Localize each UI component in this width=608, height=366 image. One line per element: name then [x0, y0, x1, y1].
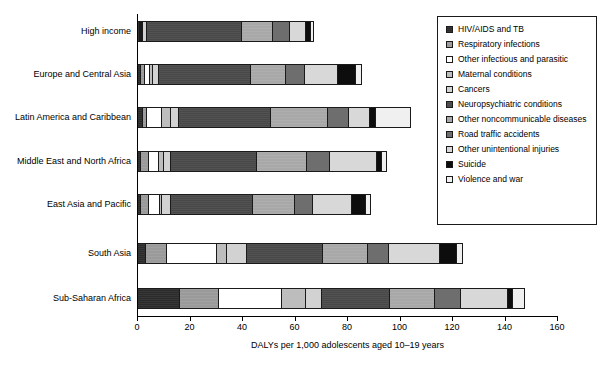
legend-item-label: Road traffic accidents	[458, 129, 540, 139]
x-tick-mark	[347, 317, 348, 321]
legend-item-label: HIV/AIDS and TB	[458, 24, 524, 34]
bar-segment	[323, 244, 368, 263]
bar-segment	[247, 244, 323, 263]
bar-segment	[305, 65, 338, 84]
legend-item-label: Maternal conditions	[458, 69, 532, 79]
bar-segment	[253, 195, 295, 214]
bar-segment	[376, 108, 410, 127]
legend-item-label: Respiratory infections	[458, 39, 540, 49]
bar-segment	[257, 152, 307, 171]
x-tick-mark	[190, 317, 191, 321]
bar-segment	[461, 289, 508, 308]
x-tick-label: 160	[537, 322, 577, 333]
y-axis-line	[137, 14, 138, 317]
legend-item[interactable]: Respiratory infections	[446, 39, 590, 49]
legend-item-label: Violence and war	[458, 174, 523, 184]
bar-segment	[271, 108, 329, 127]
chart-root: High incomeEurope and Central AsiaLatin …	[0, 0, 608, 366]
y-axis-category-label: East Asia and Pacific	[0, 199, 131, 209]
y-axis-category-label: South Asia	[0, 248, 131, 258]
bar-segment	[171, 152, 258, 171]
stacked-bar	[137, 288, 525, 309]
x-tick-label: 20	[170, 322, 210, 333]
bar-segment	[440, 244, 457, 263]
bar-segment	[330, 152, 377, 171]
legend-swatch-icon	[446, 146, 453, 153]
legend-item[interactable]: Neuropsychiatric conditions	[446, 99, 590, 109]
bar-segment	[290, 22, 306, 41]
bar-segment	[180, 289, 219, 308]
x-tick-mark	[242, 317, 243, 321]
stacked-bar	[137, 64, 362, 85]
bar-segment	[307, 152, 329, 171]
bar-segment	[390, 289, 435, 308]
stacked-bar	[137, 107, 411, 128]
bar-segment	[389, 244, 440, 263]
x-tick-mark	[452, 317, 453, 321]
legend-swatch-icon	[446, 116, 453, 123]
legend: HIV/AIDS and TBRespiratory infectionsOth…	[437, 16, 597, 225]
legend-item[interactable]: Other noncommunicable diseases	[446, 114, 590, 124]
x-tick-label: 60	[275, 322, 315, 333]
bar-segment	[149, 195, 160, 214]
stacked-bar	[137, 194, 371, 215]
legend-item-label: Cancers	[458, 84, 490, 94]
bar-segment	[368, 244, 389, 263]
legend-swatch-icon	[446, 176, 453, 183]
legend-item[interactable]: HIV/AIDS and TB	[446, 24, 590, 34]
legend-swatch-icon	[446, 41, 453, 48]
bar-segment	[251, 65, 286, 84]
bar-segment	[141, 195, 149, 214]
y-axis-category-label: High income	[0, 26, 131, 36]
bar-segment	[366, 195, 370, 214]
bar-segment	[306, 289, 322, 308]
legend-item[interactable]: Maternal conditions	[446, 69, 590, 79]
legend-item[interactable]: Other infectious and parasitic	[446, 54, 590, 64]
bar-segment	[273, 22, 290, 41]
bar-segment	[171, 108, 179, 127]
bar-segment	[147, 22, 242, 41]
bar-segment	[513, 289, 524, 308]
x-tick-mark	[505, 317, 506, 321]
legend-item[interactable]: Suicide	[446, 159, 590, 169]
x-tick-label: 40	[222, 322, 262, 333]
legend-swatch-icon	[446, 71, 453, 78]
x-tick-mark	[295, 317, 296, 321]
bar-segment	[149, 152, 160, 171]
bar-segment	[286, 65, 304, 84]
bar-segment	[242, 22, 274, 41]
x-tick-label: 120	[432, 322, 472, 333]
bar-segment	[138, 289, 180, 308]
bar-segment	[179, 108, 271, 127]
legend-item[interactable]: Other unintentional injuries	[446, 144, 590, 154]
x-axis-title: DALYs per 1,000 adolescents aged 10–19 y…	[137, 340, 558, 350]
legend-item[interactable]: Cancers	[446, 84, 590, 94]
bar-segment	[162, 108, 171, 127]
bar-segment	[435, 289, 461, 308]
y-axis-category-label: Sub-Saharan Africa	[0, 293, 131, 303]
bar-segment	[219, 289, 282, 308]
bar-segment	[311, 22, 312, 41]
bar-segment	[356, 65, 361, 84]
legend-item-label: Neuropsychiatric conditions	[458, 99, 562, 109]
bar-segment	[171, 195, 252, 214]
legend-item[interactable]: Road traffic accidents	[446, 129, 590, 139]
bar-segment	[382, 152, 386, 171]
x-tick-label: 100	[380, 322, 420, 333]
bar-segment	[162, 195, 171, 214]
legend-swatch-icon	[446, 101, 453, 108]
y-axis-category-label: Middle East and North Africa	[0, 156, 131, 166]
stacked-bar	[137, 243, 463, 264]
bar-segment	[457, 244, 462, 263]
bar-segment	[349, 108, 370, 127]
y-axis-category-label: Latin America and Caribbean	[0, 112, 131, 122]
x-tick-label: 140	[485, 322, 525, 333]
bar-segment	[282, 289, 306, 308]
bar-segment	[138, 244, 146, 263]
legend-swatch-icon	[446, 56, 453, 63]
legend-item[interactable]: Violence and war	[446, 174, 590, 184]
bar-segment	[159, 65, 251, 84]
bar-segment	[147, 108, 161, 127]
legend-item-label: Suicide	[458, 159, 486, 169]
bar-segment	[146, 244, 167, 263]
